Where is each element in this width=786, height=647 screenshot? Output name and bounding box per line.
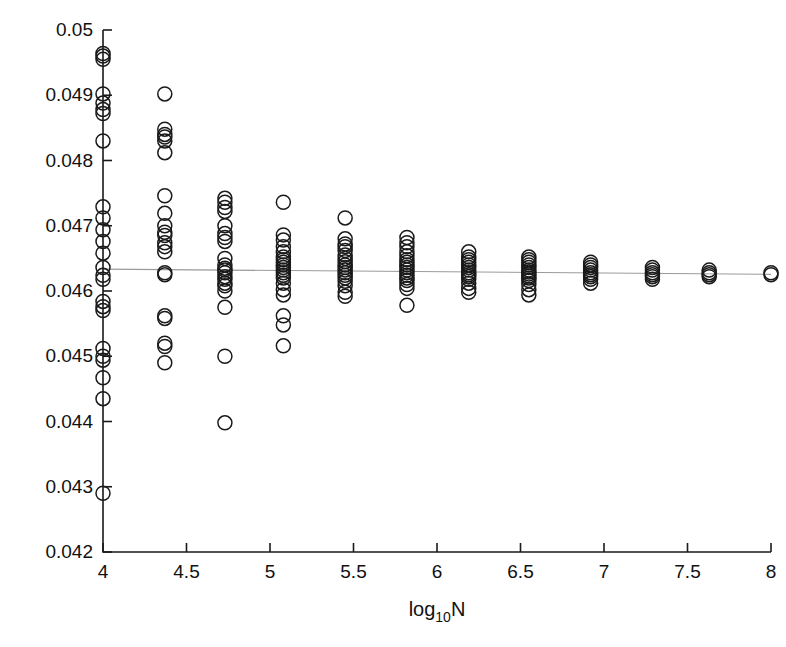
plot-canvas: 0.0420.0430.0440.0450.0460.0470.0480.049… [0,0,786,647]
x-tick-label: 5 [265,561,276,582]
y-tick-label: 0.045 [45,345,93,366]
y-tick-label: 0.048 [45,150,93,171]
y-tick-label: 0.042 [45,541,93,562]
x-tick-label: 4.5 [173,561,199,582]
y-tick-label: 0.043 [45,476,93,497]
y-tick-label: 0.046 [45,280,93,301]
y-tick-label: 0.049 [45,84,93,105]
x-tick-label: 6 [432,561,443,582]
y-tick-label: 0.05 [56,19,93,40]
x-tick-label: 7 [599,561,610,582]
scatter-plot-figure: 0.0420.0430.0440.0450.0460.0470.0480.049… [0,0,786,647]
x-tick-label: 5.5 [340,561,366,582]
x-tick-label: 8 [766,561,777,582]
x-tick-label: 4 [98,561,109,582]
x-tick-label: 6.5 [507,561,533,582]
y-tick-label: 0.047 [45,215,93,236]
x-tick-label: 7.5 [674,561,700,582]
y-tick-label: 0.044 [45,411,93,432]
plot-background [0,0,786,647]
